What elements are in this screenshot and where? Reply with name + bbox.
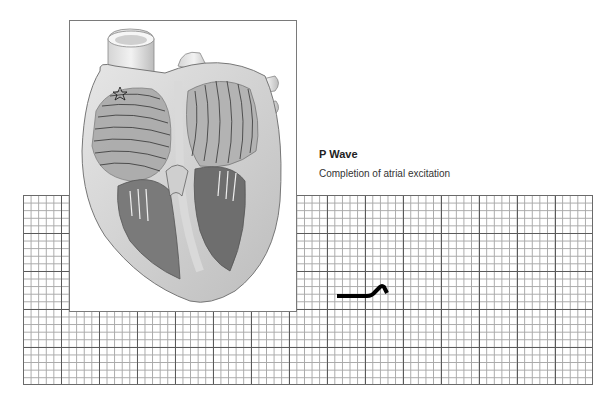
caption-title: P Wave [319, 148, 450, 160]
caption: P Wave Completion of atrial excitation [319, 148, 450, 179]
ecg-trace-p-wave [0, 0, 612, 404]
caption-subtitle: Completion of atrial excitation [319, 168, 450, 179]
